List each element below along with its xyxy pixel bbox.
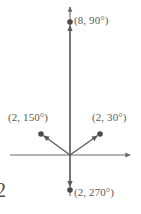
point-marker-2-270 xyxy=(67,187,73,193)
point-marker-2-150 xyxy=(38,131,44,137)
point-label-2-150: (2, 150°) xyxy=(8,111,48,123)
point-marker-8-90 xyxy=(67,19,73,25)
point-label-2-30: (2, 30°) xyxy=(92,111,127,123)
point-label-2-270: (2, 270°) xyxy=(74,186,114,198)
vector-2-30 xyxy=(70,136,97,155)
figure-number: 2 xyxy=(0,180,6,200)
vector-2-150 xyxy=(44,136,70,155)
polar-coordinate-diagram: (8, 90°) (2, 150°) (2, 30°) (2, 270°) 2 xyxy=(0,0,141,214)
point-label-8-90: (8, 90°) xyxy=(74,14,109,26)
polar-plot-svg xyxy=(0,0,141,214)
point-marker-2-30 xyxy=(97,131,103,137)
